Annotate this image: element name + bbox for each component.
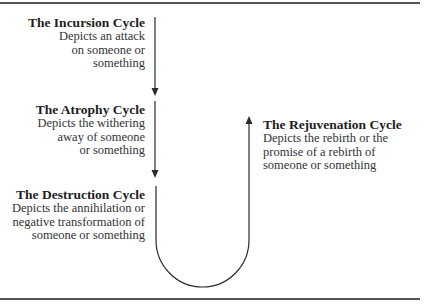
cycle-description-line: or something <box>0 144 145 158</box>
cycle-title: The Atrophy Cycle <box>0 102 145 117</box>
cycle-description-line: away of someone <box>0 131 145 145</box>
cycle-rejuvenation: The Rejuvenation Cycle Depicts the rebir… <box>263 117 423 173</box>
cycle-title: The Destruction Cycle <box>0 187 145 202</box>
cycle-description-line: someone or something <box>0 229 145 243</box>
cycle-incursion: The Incursion Cycle Depicts an attack on… <box>0 15 145 71</box>
cycle-description-line: on someone or <box>0 44 145 58</box>
cycle-title: The Rejuvenation Cycle <box>263 117 423 132</box>
cycle-description-line: Depicts the withering <box>0 117 145 131</box>
cycle-description-line: something <box>0 57 145 71</box>
cycle-description-line: Depicts an attack <box>0 30 145 44</box>
cycle-destruction: The Destruction Cycle Depicts the annihi… <box>0 187 145 243</box>
cycle-atrophy: The Atrophy Cycle Depicts the withering … <box>0 102 145 158</box>
arrow-down-atrophy-to-destruction <box>152 101 159 178</box>
cycle-description-line: Depicts the rebirth or the <box>263 132 423 146</box>
arrow-down-incursion-to-atrophy <box>152 17 159 96</box>
u-curve-destruction-to-rejuvenation <box>156 116 253 287</box>
cycle-description-line: Depicts the annihilation or <box>0 202 145 216</box>
cycle-description-line: negative transformation of <box>0 216 145 230</box>
cycle-description-line: someone or something <box>263 159 423 173</box>
cycle-description-line: promise of a rebirth of <box>263 146 423 160</box>
bottom-border-rule <box>0 298 420 300</box>
cycle-title: The Incursion Cycle <box>0 15 145 30</box>
